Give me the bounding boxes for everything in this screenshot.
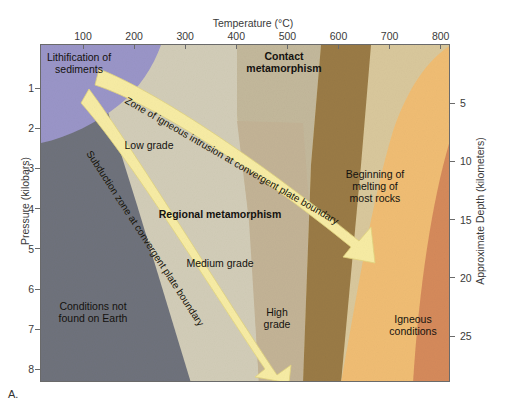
x-tick-500: 500 (279, 30, 297, 42)
y-tick-mark-pressure-6 (35, 289, 40, 290)
y-tick-pressure-4: 4 (12, 203, 34, 215)
y-tick-pressure-6: 6 (12, 283, 34, 295)
x-tick-400: 400 (228, 30, 246, 42)
x-tick-mark-800 (440, 44, 441, 49)
y-tick-mark-pressure-3 (35, 168, 40, 169)
plot-area: Lithification of sedimentsConditions not… (40, 44, 450, 382)
y-tick-mark-depth-15 (450, 219, 455, 220)
y-tick-mark-pressure-1 (35, 88, 40, 89)
x-tick-100: 100 (74, 30, 92, 42)
y-tick-mark-depth-20 (450, 277, 455, 278)
y-tick-depth-15: 15 (460, 214, 482, 226)
x-tick-mark-300 (185, 44, 186, 49)
x-tick-700: 700 (381, 30, 399, 42)
x-axis-title: Temperature (°C) (0, 17, 506, 29)
x-tick-200: 200 (125, 30, 143, 42)
y-tick-mark-depth-10 (450, 161, 455, 162)
x-tick-600: 600 (330, 30, 348, 42)
x-tick-mark-100 (83, 44, 84, 49)
y-tick-mark-pressure-5 (35, 248, 40, 249)
y-tick-pressure-7: 7 (12, 323, 34, 335)
y-tick-pressure-1: 1 (12, 82, 34, 94)
y-tick-depth-5: 5 (460, 97, 482, 109)
y-tick-mark-depth-5 (450, 103, 455, 104)
y-tick-depth-10: 10 (460, 155, 482, 167)
plot-regions-svg (41, 45, 450, 382)
y-tick-mark-depth-25 (450, 336, 455, 337)
y-tick-mark-pressure-4 (35, 208, 40, 209)
panel-letter: A. (8, 388, 18, 400)
y-tick-depth-20: 20 (460, 272, 482, 284)
y-tick-depth-25: 25 (460, 330, 482, 342)
y-tick-pressure-3: 3 (12, 162, 34, 174)
y-tick-pressure-5: 5 (12, 243, 34, 255)
x-tick-300: 300 (176, 30, 194, 42)
x-tick-mark-700 (389, 44, 390, 49)
x-tick-mark-500 (287, 44, 288, 49)
y-tick-mark-pressure-8 (35, 369, 40, 370)
x-tick-mark-400 (236, 44, 237, 49)
metamorphic-conditions-diagram: Temperature (°C) Pressure (kilobars) App… (0, 0, 506, 411)
y-tick-mark-pressure-7 (35, 329, 40, 330)
x-tick-mark-200 (134, 44, 135, 49)
y-tick-pressure-2: 2 (12, 122, 34, 134)
y-tick-pressure-8: 8 (12, 363, 34, 375)
y-tick-mark-pressure-2 (35, 128, 40, 129)
x-tick-800: 800 (432, 30, 450, 42)
x-tick-mark-600 (338, 44, 339, 49)
